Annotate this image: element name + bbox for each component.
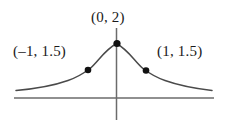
- data-point-peak: [113, 40, 120, 47]
- data-point-left: [85, 67, 92, 74]
- figure-canvas: (0, 2) (–1, 1.5) (1, 1.5): [0, 0, 229, 132]
- point-label-right: (1, 1.5): [157, 44, 202, 59]
- point-label-left: (–1, 1.5): [13, 44, 66, 59]
- point-label-peak: (0, 2): [91, 10, 125, 25]
- data-point-right: [143, 67, 150, 74]
